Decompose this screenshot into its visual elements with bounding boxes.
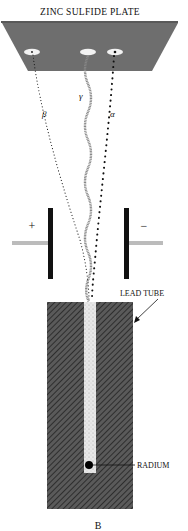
- zinc-sulfide-plate: [1, 22, 178, 71]
- negative-electrode: −: [124, 208, 163, 279]
- tube-label: LEAD TUBE: [120, 289, 164, 298]
- alpha-ray-path: [92, 56, 114, 300]
- radiation-deflection-diagram: ZINC SULFIDE PLATE β γ α + − LEAD TUBE: [0, 0, 188, 531]
- tube-channel: [84, 302, 96, 473]
- gamma-label: γ: [79, 91, 83, 101]
- negative-sign: −: [141, 219, 148, 233]
- gamma-ray-path: [85, 56, 91, 302]
- lead-tube: [47, 302, 133, 509]
- beta-label: β: [41, 109, 47, 119]
- positive-sign: +: [29, 219, 36, 233]
- plate-label: ZINC SULFIDE PLATE: [40, 7, 140, 17]
- gamma-impact-spot: [80, 49, 96, 55]
- tube-arrow: [136, 299, 158, 320]
- radium-source: [85, 461, 93, 469]
- positive-electrode: +: [12, 208, 53, 279]
- figure-caption: B: [95, 520, 102, 531]
- radium-label: RADIUM: [137, 461, 169, 470]
- alpha-label: α: [110, 109, 115, 119]
